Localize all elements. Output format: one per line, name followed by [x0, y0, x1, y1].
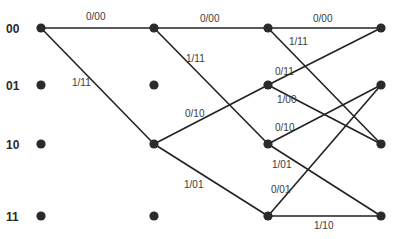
state-node-10-t1: [149, 139, 158, 148]
state-node-01-t0: [36, 80, 45, 89]
trellis-diagram: 0/001/110/001/110/101/010/001/110/111/00…: [0, 0, 404, 239]
state-label-11: 11: [6, 210, 19, 224]
transition-label: 1/11: [72, 77, 91, 88]
transition-edge: [154, 144, 268, 216]
transition-label: 0/11: [275, 66, 294, 77]
transition-label: 0/00: [313, 13, 333, 24]
edge-labels-group: 0/001/110/001/110/101/010/001/110/111/00…: [72, 11, 334, 231]
state-node-10-t2: [263, 139, 272, 148]
state-node-11-t3: [376, 211, 385, 220]
transition-label: 1/11: [186, 53, 205, 64]
state-node-00-t2: [263, 23, 272, 32]
transition-label: 0/01: [271, 184, 291, 195]
state-node-00-t0: [36, 23, 45, 32]
state-node-11-t1: [149, 211, 158, 220]
state-node-00-t1: [149, 23, 158, 32]
state-labels-group: 00011011: [6, 22, 20, 224]
state-node-01-t3: [376, 80, 385, 89]
edges-group: [41, 28, 381, 216]
state-label-01: 01: [6, 79, 20, 93]
transition-edge: [41, 28, 154, 144]
transition-label: 1/00: [277, 94, 297, 105]
transition-label: 0/10: [185, 108, 205, 119]
state-node-01-t2: [263, 80, 272, 89]
state-node-11-t2: [263, 211, 272, 220]
transition-edge: [154, 85, 268, 144]
transition-edge: [154, 28, 268, 144]
state-node-00-t3: [376, 23, 385, 32]
transition-label: 1/01: [184, 179, 204, 190]
state-label-10: 10: [6, 138, 20, 152]
state-node-01-t1: [149, 80, 158, 89]
transition-label: 1/01: [272, 159, 292, 170]
transition-label: 0/10: [275, 122, 295, 133]
trellis-svg: 0/001/110/001/110/101/010/001/110/111/00…: [0, 0, 404, 239]
transition-label: 0/00: [86, 11, 106, 22]
state-node-11-t0: [36, 211, 45, 220]
state-node-10-t0: [36, 139, 45, 148]
transition-edge: [268, 144, 381, 216]
transition-label: 1/11: [289, 36, 308, 47]
state-node-10-t3: [376, 139, 385, 148]
state-label-00: 00: [6, 22, 20, 36]
transition-label: 0/00: [200, 13, 220, 24]
transition-label: 1/10: [314, 220, 334, 231]
